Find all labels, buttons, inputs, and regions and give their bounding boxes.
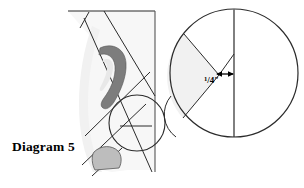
dimension-arrowhead-right — [228, 71, 234, 77]
head-profile-panel — [68, 11, 165, 176]
magnified-detail-circle — [164, 9, 298, 137]
figure-caption: Diagram 5 — [12, 139, 75, 155]
technical-diagram — [0, 0, 304, 188]
diagram-page: 1/4" Diagram 5 — [0, 0, 304, 188]
dimension-label: 1/4" — [204, 76, 219, 85]
dimension-unit: " — [214, 76, 218, 85]
nape-blob-shape — [92, 147, 121, 170]
